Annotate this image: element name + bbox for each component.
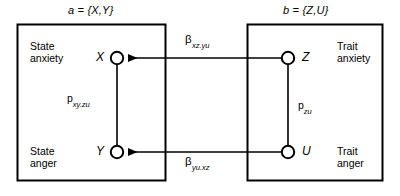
p-zu-symbol: p bbox=[298, 99, 304, 111]
construct-trait-anxiety: Trait anxiety bbox=[337, 40, 370, 64]
p-zu-subscript: zu bbox=[304, 107, 312, 116]
p-xy-zu-symbol: p bbox=[67, 92, 73, 104]
path-label-p-zu: pzu bbox=[298, 99, 312, 115]
beta-yu-xz-symbol: β bbox=[185, 155, 192, 167]
construct-trait-anger: Trait anger bbox=[337, 145, 364, 169]
node-Z-label: Z bbox=[302, 51, 309, 65]
panel-b-set-label: b = {Z,U} bbox=[283, 4, 329, 17]
node-U-circle bbox=[282, 146, 294, 158]
construct-state-anger-line2: anger bbox=[30, 157, 57, 169]
path-label-beta-xz-yu: βxz.yu bbox=[185, 33, 209, 49]
construct-state-anxiety: State anxiety bbox=[30, 40, 63, 64]
construct-state-anxiety-line2: anxiety bbox=[30, 52, 63, 64]
path-label-p-xy-zu: pxy.zu bbox=[67, 92, 90, 108]
construct-trait-anxiety-line1: Trait bbox=[337, 40, 370, 52]
construct-state-anger-line1: State bbox=[30, 145, 57, 157]
node-Y-circle bbox=[111, 146, 123, 158]
panel-a-set-label: a = {X,Y} bbox=[68, 4, 114, 17]
construct-state-anxiety-line1: State bbox=[30, 40, 63, 52]
construct-state-anger: State anger bbox=[30, 145, 57, 169]
beta-xz-yu-subscript: xz.yu bbox=[192, 41, 210, 50]
path-diagram: a = {X,Y} b = {Z,U} State anxiety State … bbox=[0, 0, 400, 196]
beta-xz-yu-symbol: β bbox=[185, 33, 192, 45]
node-Z-circle bbox=[282, 52, 294, 64]
p-xy-zu-subscript: xy.zu bbox=[73, 100, 90, 109]
node-U-label: U bbox=[302, 145, 311, 159]
node-X-circle bbox=[111, 52, 123, 64]
construct-trait-anxiety-line2: anxiety bbox=[337, 52, 370, 64]
construct-trait-anger-line1: Trait bbox=[337, 145, 364, 157]
node-X-label: X bbox=[96, 51, 104, 65]
beta-yu-xz-subscript: yu.xz bbox=[192, 163, 210, 172]
construct-trait-anger-line2: anger bbox=[337, 157, 364, 169]
node-Y-label: Y bbox=[96, 145, 104, 159]
path-label-beta-yu-xz: βyu.xz bbox=[185, 155, 209, 171]
